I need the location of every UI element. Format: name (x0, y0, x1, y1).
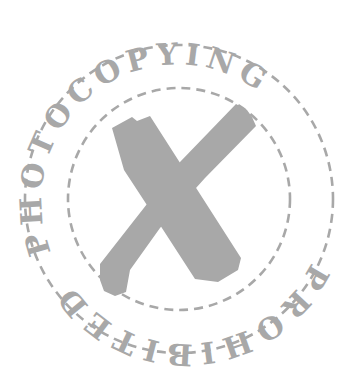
photocopying-prohibited-stamp: PHOTOCOPYING PROHIBITED (0, 0, 358, 389)
stamp-bottom-text: PROHIBITED (47, 259, 337, 373)
x-mark-icon (100, 104, 256, 296)
